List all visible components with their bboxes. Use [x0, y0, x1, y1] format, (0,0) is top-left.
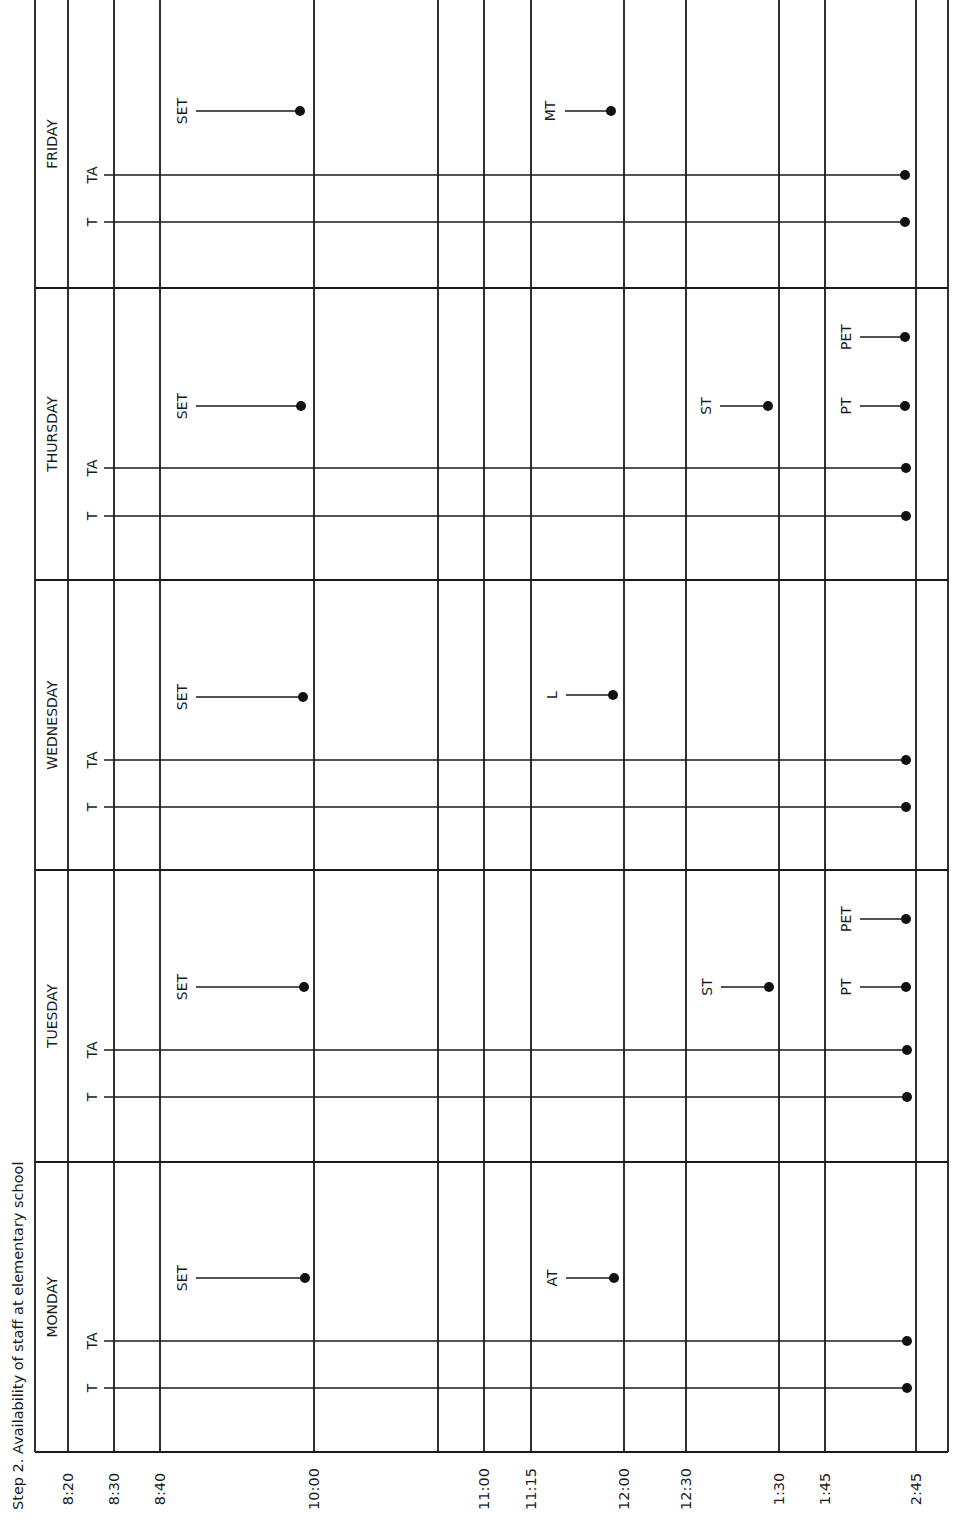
staff-availability-bar: ST	[698, 397, 773, 415]
day-label: TUESDAY	[44, 983, 60, 1049]
end-dot-icon	[901, 511, 911, 521]
end-dot-icon	[608, 690, 618, 700]
day-label: WEDNESDAY	[44, 680, 60, 770]
staff-availability-bar: SET	[174, 97, 305, 124]
time-tick-label: 2:45	[908, 1473, 924, 1506]
staff-label: MT	[542, 100, 558, 121]
staff-label: ST	[699, 978, 715, 996]
staff-availability-bar: T	[84, 511, 911, 521]
staff-label: SET	[174, 392, 190, 419]
staff-availability-bar: SET	[174, 973, 309, 1000]
time-tick-label: 8:20	[60, 1473, 76, 1506]
staff-availability-bar: PET	[838, 906, 911, 932]
availability-bars: TTASETMTTTASETSTPTPETTTASETLTTASETSTPTPE…	[84, 97, 912, 1393]
day-label: FRIDAY	[44, 119, 60, 169]
time-tick-label: 1:30	[771, 1473, 787, 1506]
staff-label: L	[544, 691, 560, 699]
time-tick-label: 8:40	[152, 1473, 168, 1506]
day-label: THURSDAY	[44, 396, 60, 473]
staff-availability-bar: SET	[174, 683, 308, 710]
time-axis-labels: 8:208:308:4010:0011:0011:1512:0012:301:3…	[60, 1468, 924, 1510]
staff-availability-bar: PET	[838, 324, 910, 350]
staff-label: T	[84, 802, 100, 812]
time-tick-label: 11:00	[476, 1468, 492, 1510]
end-dot-icon	[300, 1273, 310, 1283]
staff-availability-bar: PT	[838, 397, 910, 414]
end-dot-icon	[764, 982, 774, 992]
staff-label: T	[84, 511, 100, 521]
end-dot-icon	[901, 802, 911, 812]
staff-availability-bar: SET	[174, 1264, 310, 1291]
staff-label: SET	[174, 1264, 190, 1291]
end-dot-icon	[606, 106, 616, 116]
end-dot-icon	[900, 217, 910, 227]
staff-label: ST	[698, 397, 714, 415]
time-tick-label: 11:15	[523, 1468, 539, 1510]
staff-label: PT	[838, 978, 854, 995]
time-tick-label: 12:00	[616, 1468, 632, 1510]
end-dot-icon	[609, 1273, 619, 1283]
staff-availability-bar: T	[84, 802, 911, 812]
end-dot-icon	[902, 1045, 912, 1055]
staff-label: PET	[838, 324, 854, 350]
staff-availability-bar: SET	[174, 392, 306, 419]
staff-availability-bar: MT	[542, 100, 616, 121]
staff-label: TA	[84, 459, 100, 477]
time-tick-label: 12:30	[678, 1468, 694, 1510]
end-dot-icon	[902, 1336, 912, 1346]
end-dot-icon	[901, 463, 911, 473]
chart-title: Step 2. Availability of staff at element…	[10, 1161, 26, 1510]
staff-availability-bar: TA	[84, 166, 910, 184]
staff-label: T	[84, 217, 100, 227]
end-dot-icon	[295, 106, 305, 116]
day-label: MONDAY	[44, 1276, 60, 1338]
day-labels: FRIDAYTHURSDAYWEDNESDAYTUESDAYMONDAY	[44, 119, 60, 1338]
grid-lines	[35, 0, 948, 1452]
time-tick-label: 1:45	[817, 1473, 833, 1506]
end-dot-icon	[900, 170, 910, 180]
staff-availability-bar: PT	[838, 978, 911, 995]
end-dot-icon	[902, 1092, 912, 1102]
end-dot-icon	[763, 401, 773, 411]
end-dot-icon	[298, 692, 308, 702]
staff-availability-bar: TA	[84, 751, 911, 769]
end-dot-icon	[900, 401, 910, 411]
staff-label: T	[84, 1383, 100, 1393]
end-dot-icon	[901, 755, 911, 765]
staff-label: PET	[838, 906, 854, 932]
staff-label: PT	[838, 397, 854, 414]
staff-label: T	[84, 1092, 100, 1102]
time-tick-label: 8:30	[106, 1473, 122, 1506]
staff-label: TA	[84, 751, 100, 769]
chart-title-text: Step 2. Availability of staff at element…	[10, 1161, 26, 1510]
staff-label: AT	[544, 1269, 560, 1286]
staff-availability-bar: T	[84, 217, 910, 227]
staff-availability-chart: Step 2. Availability of staff at element…	[0, 0, 963, 1522]
staff-availability-bar: AT	[544, 1269, 619, 1286]
staff-label: TA	[84, 166, 100, 184]
end-dot-icon	[296, 401, 306, 411]
staff-availability-bar: TA	[84, 1332, 912, 1350]
staff-label: SET	[174, 683, 190, 710]
staff-label: SET	[174, 973, 190, 1000]
staff-availability-bar: T	[84, 1092, 912, 1102]
end-dot-icon	[900, 332, 910, 342]
time-tick-label: 10:00	[306, 1468, 322, 1510]
end-dot-icon	[299, 982, 309, 992]
staff-availability-bar: ST	[699, 978, 774, 996]
end-dot-icon	[902, 1383, 912, 1393]
staff-availability-bar: T	[84, 1383, 912, 1393]
staff-availability-bar: L	[544, 690, 618, 700]
staff-label: TA	[84, 1041, 100, 1059]
staff-availability-bar: TA	[84, 459, 911, 477]
staff-availability-bar: TA	[84, 1041, 912, 1059]
staff-label: SET	[174, 97, 190, 124]
end-dot-icon	[901, 914, 911, 924]
staff-label: TA	[84, 1332, 100, 1350]
end-dot-icon	[901, 982, 911, 992]
